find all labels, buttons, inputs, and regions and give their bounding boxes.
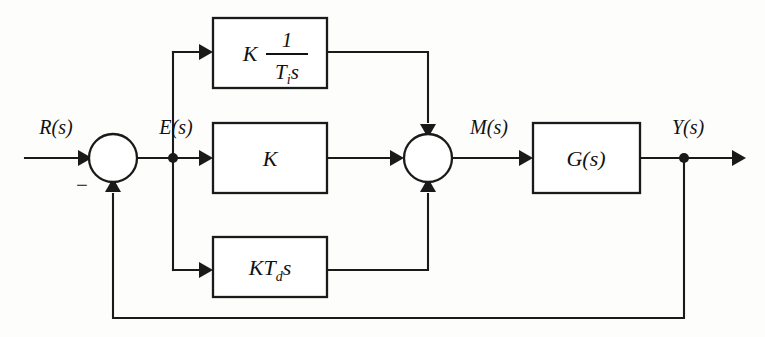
- wire-integral-output: [327, 52, 428, 122]
- negative-sign-label: −: [76, 173, 88, 197]
- block-integral-numerator: 1: [282, 28, 293, 52]
- block-diagram-container: − K 1 Tis K KTds G(s) R(s) E(s) M(s) Y(s…: [0, 0, 765, 337]
- summing-junction-controller: [404, 134, 452, 182]
- derivative-variable: s: [283, 255, 292, 280]
- block-plant-label: G(s): [566, 146, 605, 171]
- derivative-gain: KT: [248, 255, 278, 280]
- takeoff-node-error: [168, 153, 178, 163]
- denominator-variable: s: [291, 60, 299, 84]
- arrowhead-plant-input: [519, 150, 533, 166]
- wire-derivative-output: [327, 194, 428, 270]
- label-error-signal: E(s): [158, 116, 193, 139]
- block-proportional-label: K: [262, 146, 279, 171]
- arrowhead-system-output: [732, 150, 746, 166]
- arrowhead-derivative-input: [199, 262, 213, 278]
- arrowhead-proportional-input: [199, 150, 213, 166]
- block-integral: [213, 18, 327, 88]
- block-diagram-canvas: − K 1 Tis K KTds G(s) R(s) E(s) M(s) Y(s…: [0, 0, 765, 337]
- block-integral-gain: K: [242, 41, 259, 66]
- arrowhead-sum2-left-input: [390, 150, 404, 166]
- label-reference-signal: R(s): [38, 116, 73, 139]
- block-derivative-label: KTds: [248, 255, 291, 284]
- summing-junction-error: [89, 134, 137, 182]
- arrowhead-integral-input: [199, 44, 213, 60]
- label-output-signal: Y(s): [672, 116, 705, 139]
- label-manipulated-signal: M(s): [469, 116, 508, 139]
